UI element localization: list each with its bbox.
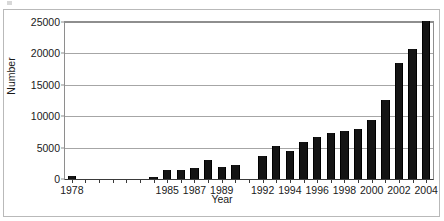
bar: [408, 49, 416, 179]
x-axis-tick-label: 1985: [156, 184, 179, 196]
bar: [340, 131, 348, 179]
bar: [177, 170, 185, 179]
chart-figure: Number Year 0500010000150002000025000 19…: [0, 0, 444, 221]
bar: [327, 133, 335, 179]
x-axis-tick-label: 2000: [360, 184, 383, 196]
bar: [313, 137, 321, 179]
image-artifact-speck: [7, 1, 12, 5]
x-axis-tick-mark: [222, 179, 223, 183]
x-axis-tick-label: 1992: [251, 184, 274, 196]
x-axis-tick-label: 2004: [414, 184, 437, 196]
x-axis-tick-label: 1994: [278, 184, 301, 196]
bar: [367, 120, 375, 179]
bar: [395, 63, 403, 179]
bar: [218, 167, 226, 179]
x-axis-ticks-group: 1978198519871989199219941996199820002002…: [65, 179, 433, 201]
x-axis-tick-mark: [235, 179, 236, 183]
bar: [422, 21, 430, 179]
x-axis-tick-mark: [358, 179, 359, 183]
y-axis-title: Number: [5, 41, 17, 111]
y-axis-tick-label: 25000: [31, 16, 60, 28]
x-axis-tick-mark: [385, 179, 386, 183]
x-axis-tick-mark: [194, 179, 195, 183]
x-axis-tick-mark: [344, 179, 345, 183]
bar: [272, 146, 280, 179]
x-axis-tick-mark: [85, 179, 86, 183]
x-axis-tick-mark: [140, 179, 141, 183]
x-axis-tick-label: 1998: [333, 184, 356, 196]
x-axis-tick-mark: [304, 179, 305, 183]
x-axis-tick-mark: [126, 179, 127, 183]
x-axis-tick-mark: [181, 179, 182, 183]
x-axis-tick-label: 1989: [210, 184, 233, 196]
y-axis-tick-label: 15000: [31, 79, 60, 91]
x-axis-tick-mark: [72, 179, 73, 183]
plot-area: 0500010000150002000025000 19781985198719…: [64, 21, 434, 180]
x-axis-tick-mark: [167, 179, 168, 183]
x-axis-tick-mark: [290, 179, 291, 183]
x-axis-tick-mark: [276, 179, 277, 183]
y-axis-tick-label: 10000: [31, 110, 60, 122]
bar: [286, 151, 294, 179]
bar: [381, 100, 389, 179]
x-axis-tick-label: 1978: [60, 184, 83, 196]
x-axis-tick-mark: [426, 179, 427, 183]
y-axis-tick-label: 5000: [37, 142, 60, 154]
bar: [258, 156, 266, 179]
x-axis-tick-mark: [208, 179, 209, 183]
x-axis-tick-mark: [372, 179, 373, 183]
bars-group: [65, 22, 433, 179]
y-axis-tick-label: 0: [54, 173, 60, 185]
x-axis-tick-label: 1987: [183, 184, 206, 196]
x-axis-tick-mark: [399, 179, 400, 183]
x-axis-tick-label: 2002: [387, 184, 410, 196]
x-axis-tick-mark: [154, 179, 155, 183]
bar: [163, 170, 171, 179]
bar: [231, 165, 239, 179]
bar: [190, 168, 198, 179]
bar: [299, 142, 307, 179]
x-axis-tick-mark: [263, 179, 264, 183]
x-axis-tick-mark: [317, 179, 318, 183]
x-axis-tick-label: 1996: [305, 184, 328, 196]
x-axis-tick-mark: [331, 179, 332, 183]
x-axis-tick-mark: [99, 179, 100, 183]
bar: [204, 160, 212, 179]
bar: [354, 129, 362, 179]
x-axis-tick-mark: [249, 179, 250, 183]
x-axis-tick-mark: [113, 179, 114, 183]
x-axis-tick-mark: [413, 179, 414, 183]
y-axis-tick-label: 20000: [31, 47, 60, 59]
